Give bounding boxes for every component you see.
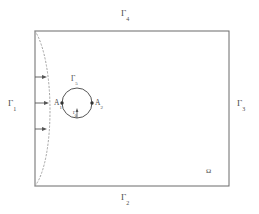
label-gamma-3: Γ3 [237, 99, 245, 110]
inflow-profile-curve [35, 31, 50, 186]
diagram-canvas [0, 0, 259, 214]
domain-boundary-rect [35, 31, 229, 186]
label-gamma-4: Γ4 [121, 9, 129, 20]
label-omega: Ω [206, 168, 211, 175]
label-gamma-5: Γ5 [71, 75, 78, 85]
label-radius-r0: r0 [73, 110, 77, 117]
label-point-a1: A1 [54, 99, 62, 109]
inflow-arrow-bottom [35, 127, 47, 131]
inflow-arrow-top [35, 75, 47, 79]
label-gamma-2: Γ2 [121, 193, 129, 204]
inflow-arrow-middle [35, 101, 49, 105]
diagram-figure: Γ4 Γ2 Γ1 Γ3 Γ5 A1 A2 r0 Ω [0, 0, 259, 214]
label-gamma-1: Γ1 [8, 99, 16, 110]
point-a2-marker [90, 101, 93, 104]
label-point-a2: A2 [95, 99, 103, 109]
